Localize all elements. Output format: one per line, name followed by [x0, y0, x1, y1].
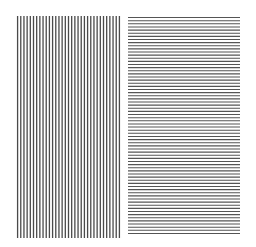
horizontal-line-grating	[128, 16, 240, 235]
horizontal-lines-graphic	[128, 16, 240, 235]
vertical-line-grating	[16, 16, 121, 238]
vertical-lines-graphic	[16, 16, 121, 238]
